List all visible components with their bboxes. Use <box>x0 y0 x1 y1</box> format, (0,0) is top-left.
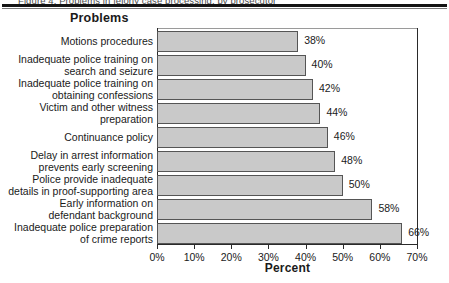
bar <box>157 151 335 172</box>
bar-value-label: 66% <box>408 226 429 238</box>
bar-value-label: 48% <box>341 154 362 166</box>
bar-value-label: 40% <box>312 58 333 70</box>
bar <box>157 103 320 124</box>
category-label: Delay in arrest information prevents ear… <box>0 150 153 173</box>
x-axis-title: Percent <box>157 261 418 275</box>
category-label: Inadequate police training on obtaining … <box>0 78 153 101</box>
bar <box>157 79 313 100</box>
category-label: Inadequate police training on search and… <box>0 54 153 77</box>
category-label: Early information on defendant backgroun… <box>0 198 153 221</box>
top-rule-divider <box>2 4 447 7</box>
bar <box>157 31 298 52</box>
x-tick-mark <box>343 245 344 249</box>
x-tick-mark <box>380 245 381 249</box>
plot-frame-right <box>417 28 418 245</box>
bar <box>157 55 306 76</box>
category-label: Continuance policy <box>0 132 153 144</box>
x-tick-mark <box>268 245 269 249</box>
category-label: Victim and other witness preparation <box>0 102 153 125</box>
bar <box>157 127 328 148</box>
plot-frame-top <box>157 28 418 29</box>
category-label: Police provide inadequate details in pro… <box>0 174 153 197</box>
page-title: Problems <box>70 11 129 25</box>
bar <box>157 223 402 244</box>
plot-frame-bottom-axis <box>157 244 418 245</box>
x-tick-mark <box>306 245 307 249</box>
bar-value-label: 58% <box>378 202 399 214</box>
bar-value-label: 38% <box>304 34 325 46</box>
bar-value-label: 44% <box>326 106 347 118</box>
bar-value-label: 42% <box>319 82 340 94</box>
category-label: Motions procedures <box>0 36 153 48</box>
bar <box>157 199 372 220</box>
bar-chart-plot-area: 38%40%42%44%46%48%50%58%66% 0%10%20%30%4… <box>157 28 418 245</box>
x-tick-mark <box>157 245 158 249</box>
bar-value-label: 46% <box>334 130 355 142</box>
bar <box>157 175 343 196</box>
category-label: Inadequate police preparation of crime r… <box>0 222 153 245</box>
x-tick-mark <box>417 245 418 249</box>
bar-value-label: 50% <box>349 178 370 190</box>
top-rule-hairline <box>2 8 447 9</box>
x-tick-mark <box>194 245 195 249</box>
x-tick-mark <box>231 245 232 249</box>
